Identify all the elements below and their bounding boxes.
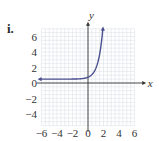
y-tick-label: 2 [32,62,38,74]
x-axis-arrow-icon [142,81,146,85]
chart: xy−6−4−202466420−2−4 [0,0,159,141]
y-tick-label: 0 [32,77,38,89]
curve [39,30,103,79]
y-tick-label: −2 [25,93,37,105]
x-tick-label: 2 [101,127,107,139]
x-tick-label: −2 [67,127,79,139]
x-axis-label: x [147,77,153,89]
y-tick-label: 4 [32,46,38,58]
y-tick-label: 6 [32,31,38,43]
y-tick-label: −4 [25,108,37,120]
y-axis-label: y [88,9,94,21]
y-axis-arrow-icon [86,22,90,26]
x-tick-label: 0 [85,127,91,139]
x-tick-label: 6 [132,127,138,139]
x-tick-label: −4 [51,127,63,139]
curve-left-arrow-icon [38,77,42,81]
x-tick-label: 4 [116,127,122,139]
x-tick-label: −6 [36,127,48,139]
